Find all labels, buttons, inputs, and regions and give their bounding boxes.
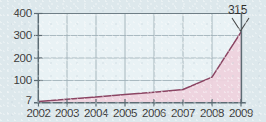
y-tick-label-200: 200 bbox=[4, 52, 32, 64]
y-tick-label-7: 7 bbox=[4, 94, 32, 106]
y-tick-label-100: 100 bbox=[4, 74, 32, 86]
area-chart bbox=[0, 0, 266, 122]
y-tick-label-300: 300 bbox=[4, 29, 32, 41]
y-tick-label-400: 400 bbox=[4, 7, 32, 19]
data-point-label-2009: 315 bbox=[228, 3, 247, 17]
x-tick-label-2009: 2009 bbox=[225, 107, 258, 119]
